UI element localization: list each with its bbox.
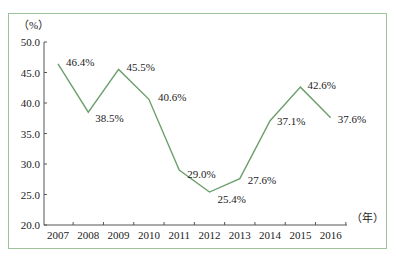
data-label: 42.6%	[307, 79, 335, 91]
x-tick-label: 2010	[138, 229, 161, 241]
data-label: 29.0%	[187, 168, 215, 180]
x-tick-label: 2014	[259, 229, 282, 241]
x-tick-label: 2015	[289, 229, 312, 241]
y-tick-label: 35.0	[21, 128, 41, 140]
data-label: 25.4%	[218, 193, 246, 205]
x-axis-unit-label: （年）	[351, 211, 384, 224]
data-label: 37.1%	[277, 115, 305, 127]
data-labels: 46.4%38.5%45.5%40.6%29.0%25.4%27.6%37.1%…	[66, 56, 366, 205]
axes	[44, 42, 347, 225]
x-tick-label: 2007	[47, 229, 70, 241]
x-tick-label: 2013	[229, 229, 252, 241]
x-tick-label: 2016	[320, 229, 343, 241]
y-tick-label: 25.0	[21, 189, 41, 201]
x-tick-label: 2012	[199, 229, 221, 241]
line-chart: （%） （年） 20.025.030.035.040.045.050.0 200…	[0, 0, 396, 257]
y-axis-unit-label: （%）	[18, 19, 49, 31]
y-tick-label: 45.0	[21, 67, 41, 79]
y-tick-label: 50.0	[21, 36, 41, 48]
data-label: 40.6%	[158, 91, 186, 103]
x-tick-label: 2009	[108, 229, 131, 241]
y-tick-label: 20.0	[21, 219, 41, 231]
x-tick-label: 2011	[168, 229, 190, 241]
data-label: 38.5%	[95, 112, 123, 124]
x-tick-label: 2008	[77, 229, 100, 241]
y-tick-label: 40.0	[21, 97, 41, 109]
data-label: 46.4%	[66, 56, 94, 68]
y-axis-ticks: 20.025.030.035.040.045.050.0	[21, 36, 47, 231]
y-tick-label: 30.0	[21, 158, 41, 170]
data-label: 27.6%	[248, 174, 276, 186]
data-label: 37.6%	[338, 113, 366, 125]
data-label: 45.5%	[127, 61, 155, 73]
